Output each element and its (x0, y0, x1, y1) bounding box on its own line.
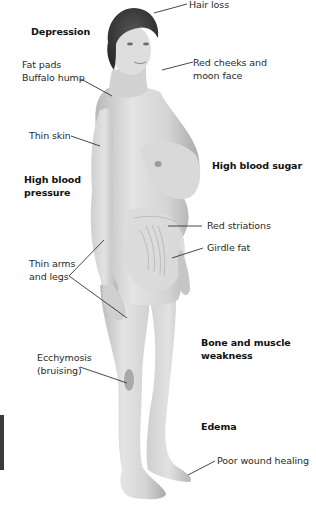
left-edge-bar (0, 415, 4, 470)
label-ecchymosis: Ecchymosis (bruising) (37, 352, 92, 377)
label-thin-arms-line2: and legs (29, 271, 75, 284)
label-high-bp-line2: pressure (24, 187, 81, 200)
label-fat-pads: Fat pads Buffalo hump (22, 59, 85, 84)
label-bone-muscle-line1: Bone and muscle (201, 337, 291, 350)
right-leg (147, 300, 191, 482)
leader-hair-loss (154, 4, 187, 13)
leader-red-cheeks (162, 62, 193, 70)
label-ecchymosis-line1: Ecchymosis (37, 352, 92, 365)
label-bone-muscle-weakness: Bone and muscle weakness (201, 337, 291, 362)
label-poor-wound-healing: Poor wound healing (217, 455, 309, 468)
label-thin-arms-line1: Thin arms (29, 258, 75, 271)
label-fat-pads-line2: Buffalo hump (22, 72, 85, 85)
label-girdle-fat: Girdle fat (207, 242, 250, 255)
bruise-mark (124, 369, 134, 391)
label-fat-pads-line1: Fat pads (22, 59, 85, 72)
leader-poor-wound (188, 461, 215, 475)
label-high-blood-sugar: High blood sugar (212, 160, 302, 173)
leader-fat-pads (81, 79, 112, 96)
label-depression: Depression (31, 26, 90, 39)
label-ecchymosis-line2: (bruising) (37, 365, 92, 378)
label-bone-muscle-line2: weakness (201, 350, 291, 363)
label-red-cheeks-line1: Red cheeks and (193, 57, 267, 70)
label-edema: Edema (201, 421, 237, 434)
label-red-striations: Red striations (207, 220, 271, 233)
head (107, 8, 158, 75)
symptom-diagram: Depression Fat pads Buffalo hump Hair lo… (0, 0, 316, 513)
label-red-cheeks-line2: moon face (193, 70, 267, 83)
label-red-cheeks: Red cheeks and moon face (193, 57, 267, 82)
label-high-blood-pressure: High blood pressure (24, 174, 81, 199)
label-thin-skin: Thin skin (29, 130, 71, 143)
label-thin-arms-legs: Thin arms and legs (29, 258, 75, 283)
label-high-bp-line1: High blood (24, 174, 81, 187)
label-hair-loss: Hair loss (189, 0, 229, 12)
